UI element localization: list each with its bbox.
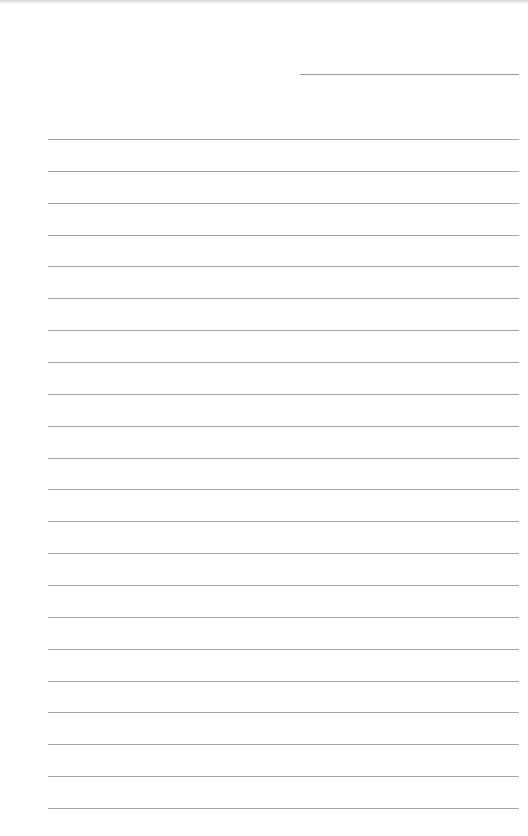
- ruled-line: [48, 266, 519, 267]
- ruled-line: [48, 776, 519, 777]
- ruled-line: [48, 681, 519, 682]
- ruled-line: [48, 553, 519, 554]
- ruled-line: [48, 808, 519, 809]
- ruled-line: [48, 171, 519, 172]
- ruled-line: [48, 585, 519, 586]
- scan-top-edge: [0, 0, 528, 4]
- ruled-line: [48, 330, 519, 331]
- ruled-line: [48, 649, 519, 650]
- date-line: [300, 74, 519, 75]
- ruled-line: [48, 235, 519, 236]
- ruled-line: [48, 712, 519, 713]
- ruled-line: [48, 139, 519, 140]
- ruled-line: [48, 203, 519, 204]
- ruled-line: [48, 489, 519, 490]
- ruled-line: [48, 744, 519, 745]
- ruled-line: [48, 426, 519, 427]
- ruled-line: [48, 458, 519, 459]
- ruled-line: [48, 298, 519, 299]
- ruled-line: [48, 394, 519, 395]
- ruled-line: [48, 362, 519, 363]
- ruled-line: [48, 617, 519, 618]
- ruled-line: [48, 521, 519, 522]
